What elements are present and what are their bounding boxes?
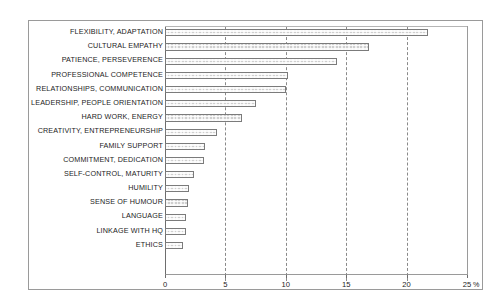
x-tick-mark-25 [467, 275, 468, 278]
bar-row: ETHICS [29, 239, 484, 253]
category-label: SENSE OF HUMOUR [90, 197, 163, 206]
bar-row: HUMILITY [29, 182, 484, 196]
bar-rows: FLEXIBILITY, ADAPTATIONCULTURAL EMPATHYP… [29, 26, 484, 253]
x-axis-unit-label: % [473, 280, 479, 289]
bar-row: SELF-CONTROL, MATURITY [29, 168, 484, 182]
bar-row: CREATIVITY, ENTREPRENEURSHIP [29, 125, 484, 139]
bar-row: HARD WORK, ENERGY [29, 111, 484, 125]
category-label: RELATIONSHIPS, COMMUNICATION [36, 84, 163, 93]
bar [165, 185, 189, 192]
chart-figure: FLEXIBILITY, ADAPTATIONCULTURAL EMPATHYP… [28, 20, 483, 290]
category-label: FLEXIBILITY, ADAPTATION [70, 27, 163, 36]
category-label: PATIENCE, PERSEVERENCE [62, 55, 163, 64]
bar [165, 29, 428, 36]
x-tick-mark-0 [165, 275, 166, 278]
x-tick-label: 20 [402, 280, 410, 289]
bar-row: CULTURAL EMPATHY [29, 40, 484, 54]
bar [165, 171, 194, 178]
x-tick-label: 15 [342, 280, 350, 289]
category-label: ETHICS [136, 240, 163, 249]
bar [165, 228, 186, 235]
category-label: SELF-CONTROL, MATURITY [64, 169, 163, 178]
bar-row: PATIENCE, PERSEVERENCE [29, 54, 484, 68]
x-tick-label: 5 [223, 280, 227, 289]
bar-row: RELATIONSHIPS, COMMUNICATION [29, 83, 484, 97]
x-tick-label: 10 [282, 280, 290, 289]
category-label: CREATIVITY, ENTREPRENEURSHIP [38, 126, 163, 135]
category-label: PROFESSIONAL COMPETENCE [51, 70, 163, 79]
bar-row: COMMITMENT, DEDICATION [29, 154, 484, 168]
x-tick-mark-5 [225, 275, 226, 278]
bar [165, 58, 337, 65]
category-label: COMMITMENT, DEDICATION [63, 155, 163, 164]
bar [165, 86, 286, 93]
category-label: LEADERSHIP, PEOPLE ORIENTATION [31, 98, 163, 107]
category-label: LINKAGE WITH HQ [96, 226, 163, 235]
category-label: HUMILITY [128, 183, 163, 192]
x-tick-mark-10 [286, 275, 287, 278]
bar-row: FLEXIBILITY, ADAPTATION [29, 26, 484, 40]
x-tick-label: 0 [163, 280, 167, 289]
bar [165, 157, 204, 164]
category-label: CULTURAL EMPATHY [88, 41, 163, 50]
bar [165, 129, 217, 136]
category-label: FAMILY SUPPORT [99, 141, 163, 150]
x-tick-label: 25 [463, 280, 471, 289]
bar [165, 43, 369, 50]
bar-row: FAMILY SUPPORT [29, 140, 484, 154]
bar-row: SENSE OF HUMOUR [29, 196, 484, 210]
bar [165, 242, 183, 249]
bar [165, 214, 186, 221]
bar-row: LEADERSHIP, PEOPLE ORIENTATION [29, 97, 484, 111]
category-label: HARD WORK, ENERGY [81, 112, 163, 121]
x-tick-mark-20 [407, 275, 408, 278]
category-label: LANGUAGE [122, 211, 163, 220]
bar-row: PROFESSIONAL COMPETENCE [29, 69, 484, 83]
bar [165, 72, 288, 79]
bar-row: LINKAGE WITH HQ [29, 225, 484, 239]
x-tick-mark-15 [346, 275, 347, 278]
bar [165, 114, 242, 121]
bar-row: LANGUAGE [29, 210, 484, 224]
bar [165, 143, 205, 150]
bar [165, 199, 188, 206]
bar [165, 100, 256, 107]
